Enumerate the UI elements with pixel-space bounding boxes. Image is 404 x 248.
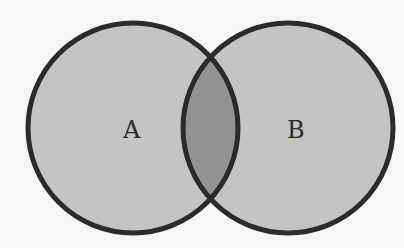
venn-diagram: A B — [0, 0, 404, 248]
set-a-label: A — [122, 116, 141, 144]
set-b-label: B — [287, 116, 305, 144]
